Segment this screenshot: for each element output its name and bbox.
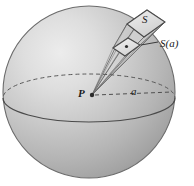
center-point-marker bbox=[90, 93, 94, 97]
figure-canvas bbox=[0, 0, 194, 186]
label-center-point-P: P bbox=[78, 88, 85, 99]
label-sphere-patch-Sa: S(a) bbox=[160, 38, 178, 49]
label-outer-patch-S: S bbox=[142, 14, 148, 25]
solid-angle-figure: S S(a) P a bbox=[0, 0, 194, 186]
label-radius-a: a bbox=[131, 86, 137, 97]
